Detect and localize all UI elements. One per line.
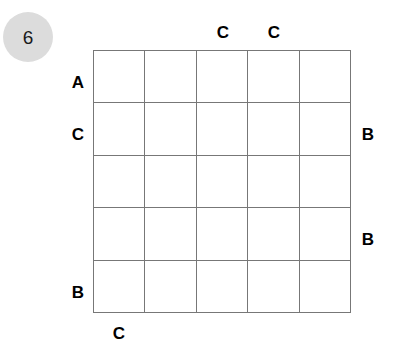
grid-cell[interactable] <box>300 261 351 313</box>
grid-cell[interactable] <box>94 103 145 155</box>
clue-top-col3: C <box>213 24 233 41</box>
grid-cell[interactable] <box>300 103 351 155</box>
grid-cell[interactable] <box>300 208 351 260</box>
clue-left-row1: A <box>68 74 88 91</box>
grid-cell[interactable] <box>197 156 248 208</box>
grid-cell[interactable] <box>197 261 248 313</box>
grid-cell[interactable] <box>94 156 145 208</box>
grid-cell[interactable] <box>248 51 299 103</box>
grid-cell[interactable] <box>248 103 299 155</box>
grid-cell[interactable] <box>145 51 196 103</box>
grid-cell[interactable] <box>197 103 248 155</box>
clue-bottom-col1: C <box>109 325 129 342</box>
clue-left-row2: C <box>68 126 88 143</box>
grid-cell[interactable] <box>145 261 196 313</box>
grid-cell[interactable] <box>300 156 351 208</box>
grid-cell[interactable] <box>145 103 196 155</box>
grid-cell[interactable] <box>248 156 299 208</box>
clue-top-col4: C <box>264 24 284 41</box>
grid-cell[interactable] <box>248 208 299 260</box>
puzzle-canvas: 6 C C C A C B B B <box>0 0 400 358</box>
grid-cell[interactable] <box>197 51 248 103</box>
puzzle-grid <box>93 50 351 313</box>
grid-cell[interactable] <box>197 208 248 260</box>
grid-cell[interactable] <box>300 51 351 103</box>
grid-cell[interactable] <box>94 208 145 260</box>
clue-left-row5: B <box>68 284 88 301</box>
grid-cell[interactable] <box>94 261 145 313</box>
grid-cell[interactable] <box>145 208 196 260</box>
grid-cell[interactable] <box>248 261 299 313</box>
clue-right-row4: B <box>358 231 378 248</box>
clue-right-row2: B <box>358 126 378 143</box>
problem-number-label: 6 <box>23 28 34 47</box>
grid-cell[interactable] <box>145 156 196 208</box>
grid-cell[interactable] <box>94 51 145 103</box>
problem-number-badge: 6 <box>3 12 53 62</box>
